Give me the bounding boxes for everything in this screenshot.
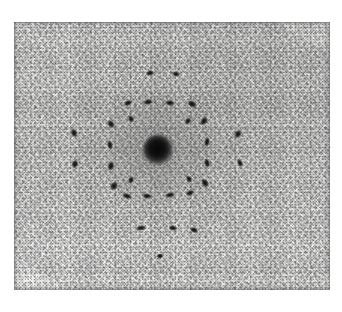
screenshot-canvas bbox=[0, 0, 342, 312]
diffraction-photograph-plate bbox=[14, 22, 330, 290]
film-edge-vignette bbox=[14, 22, 330, 290]
